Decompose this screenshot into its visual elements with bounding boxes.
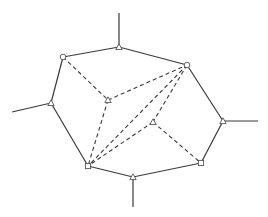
- graph-diagram: [0, 0, 268, 217]
- dashed-edge: [153, 122, 201, 163]
- dashed-edge: [63, 57, 108, 100]
- dashed-edge: [88, 122, 153, 166]
- square-node-icon: [198, 160, 203, 165]
- solid-edge: [119, 47, 187, 65]
- solid-edge: [63, 47, 119, 57]
- circle-node-icon: [60, 54, 66, 60]
- circle-node-icon: [184, 62, 190, 68]
- graph-nodes: [48, 44, 226, 180]
- solid-edge: [133, 163, 201, 177]
- triangle-node-icon: [150, 119, 156, 125]
- inner-dashed-edges: [63, 57, 201, 166]
- outer-polygon-edges: [51, 47, 223, 177]
- solid-edge: [51, 57, 63, 103]
- solid-edge: [187, 65, 223, 121]
- dashed-edge: [153, 65, 187, 122]
- solid-edge: [51, 103, 88, 166]
- dashed-edge: [108, 65, 187, 100]
- solid-edge: [88, 166, 133, 177]
- stub-edge: [12, 103, 51, 112]
- triangle-node-icon: [48, 100, 54, 106]
- solid-edge: [201, 121, 223, 163]
- square-node-icon: [85, 163, 90, 168]
- triangle-node-icon: [116, 44, 122, 50]
